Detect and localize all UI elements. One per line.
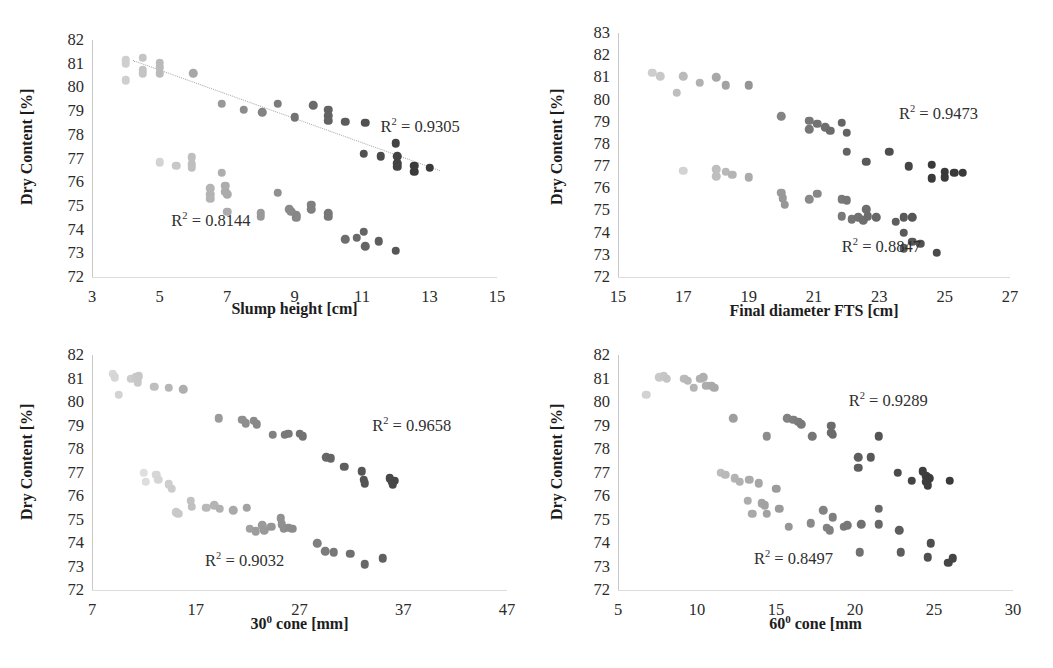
data-point (895, 526, 904, 535)
data-point (874, 432, 883, 441)
x-tick-label: 25 (926, 600, 943, 620)
data-point (690, 384, 699, 393)
y-tick-label: 73 (570, 557, 610, 577)
data-point (762, 432, 771, 441)
data-point (908, 476, 917, 485)
x-axis-line (618, 590, 1013, 591)
x-tick-label: 30 (1005, 600, 1022, 620)
data-point (710, 384, 719, 393)
data-point (748, 509, 757, 518)
data-point (825, 526, 834, 535)
data-point (808, 432, 817, 441)
panel-60-cone: 727374757677787980818251015202530600 con… (0, 0, 1053, 668)
data-point (854, 464, 863, 473)
data-point (743, 496, 752, 505)
y-axis-label: Dry Content [%] (548, 404, 566, 520)
y-tick-label: 75 (570, 510, 610, 530)
y-tick-label: 76 (570, 486, 610, 506)
y-tick-label: 78 (570, 439, 610, 459)
data-point (762, 509, 771, 518)
y-tick-label: 77 (570, 463, 610, 483)
r-squared-annotation: R2 = 0.8497 (754, 548, 833, 569)
scatter-matrix-figure: 72737475767778798081823579111315Slump he… (0, 0, 1053, 668)
data-point (946, 476, 955, 485)
data-point (745, 475, 754, 484)
data-point (797, 420, 806, 429)
x-tick-label: 5 (614, 600, 622, 620)
data-point (829, 431, 838, 440)
data-point (807, 519, 816, 528)
data-point (927, 539, 936, 548)
data-point (857, 520, 866, 529)
data-point (772, 485, 781, 494)
data-point (642, 391, 651, 400)
data-point (874, 520, 883, 529)
data-point (897, 548, 906, 557)
data-point (761, 501, 770, 510)
y-tick-label: 72 (570, 580, 610, 600)
data-point (784, 522, 793, 531)
data-point (874, 505, 883, 514)
data-point (949, 554, 958, 563)
r-squared-annotation: R2 = 0.9289 (849, 390, 928, 411)
data-point (867, 453, 876, 462)
data-point (699, 373, 708, 382)
data-point (854, 453, 863, 462)
data-point (829, 513, 838, 522)
y-tick-label: 80 (570, 392, 610, 412)
y-tick-label: 81 (570, 369, 610, 389)
data-point (893, 468, 902, 477)
data-point (843, 521, 852, 530)
x-tick-label: 10 (689, 600, 706, 620)
data-point (923, 553, 932, 562)
x-axis-label: 600 cone [mm (769, 613, 862, 633)
data-point (855, 548, 864, 557)
y-tick-label: 79 (570, 416, 610, 436)
data-point (819, 506, 828, 515)
data-point (925, 474, 934, 483)
data-point (663, 374, 672, 383)
data-point (721, 471, 730, 480)
data-point (735, 478, 744, 487)
data-point (775, 505, 784, 514)
y-tick-label: 74 (570, 533, 610, 553)
data-point (729, 414, 738, 423)
y-tick-label: 82 (570, 345, 610, 365)
data-point (754, 479, 763, 488)
y-axis-line (618, 355, 619, 590)
